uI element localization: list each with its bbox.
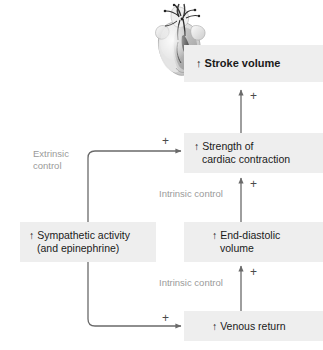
arrow-sympathetic-to-venous-return xyxy=(88,262,181,326)
stroke-volume-control-diagram: ↑ Stroke volume ↑ Strength of cardiac co… xyxy=(0,0,323,350)
arrow-sympathetic-to-contraction xyxy=(88,151,181,222)
connector-arrows xyxy=(0,0,323,350)
